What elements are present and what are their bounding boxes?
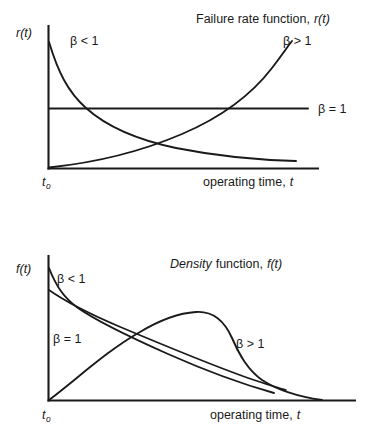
failure-rate-chart: r(t) Failure rate function,r(t) β < 1 β … xyxy=(0,0,366,220)
x-axis-label-italic: t xyxy=(290,175,294,189)
x-axis-label-italic: t xyxy=(297,408,301,422)
x-axis-label: operating time,t xyxy=(203,175,294,189)
origin-label-subscript: o xyxy=(46,414,51,424)
chart-title-italic: f(t) xyxy=(267,257,282,271)
chart-title: Densityfunction,f(t) xyxy=(170,257,282,271)
chart-title: Failure rate function,r(t) xyxy=(196,12,330,26)
chart-title-italic: r(t) xyxy=(314,12,330,26)
annotation-beta-eq-1: β = 1 xyxy=(53,332,81,346)
annotation-beta-lt-1: β < 1 xyxy=(70,34,98,48)
density-plot: f(t) Densityfunction,f(t) β < 1 β = 1 β … xyxy=(0,220,366,440)
x-axis-label-plain: operating time, xyxy=(203,175,286,189)
origin-label-subscript: o xyxy=(46,181,51,191)
chart-title-italic-lead: Density xyxy=(170,257,212,271)
x-axis-label-plain: operating time, xyxy=(210,408,293,422)
curve-beta-gt-1 xyxy=(49,41,292,168)
y-axis-label: f(t) xyxy=(16,262,31,276)
annotation-beta-gt-1: β > 1 xyxy=(283,34,311,48)
annotation-beta-lt-1: β < 1 xyxy=(57,272,85,286)
annotation-beta-eq-1: β = 1 xyxy=(318,102,346,116)
curve-beta-lt-1 xyxy=(49,42,296,161)
annotation-beta-gt-1: β > 1 xyxy=(236,337,264,351)
chart-title-plain: function, xyxy=(216,257,263,271)
x-axis-label: operating time,t xyxy=(210,408,301,422)
density-chart: f(t) Densityfunction,f(t) β < 1 β = 1 β … xyxy=(0,220,366,440)
curve-beta-gt-1 xyxy=(49,312,322,400)
origin-label: to xyxy=(42,408,51,424)
chart-title-plain: Failure rate function, xyxy=(196,12,310,26)
y-axis-label: r(t) xyxy=(16,26,32,40)
failure-rate-plot: r(t) Failure rate function,r(t) β < 1 β … xyxy=(0,0,366,220)
origin-label: to xyxy=(42,175,51,191)
